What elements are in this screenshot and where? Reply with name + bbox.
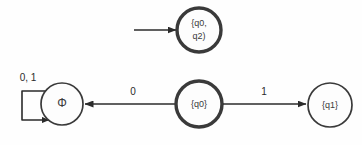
state-phi[interactable]: Φ (41, 83, 83, 125)
transition-q0-to-phi: 0 (85, 86, 176, 104)
state-q0-label: {q0} (191, 99, 207, 109)
q0-to-phi-label: 0 (130, 86, 136, 97)
state-q1-label: {q1} (322, 100, 338, 110)
state-q0[interactable]: {q0} (176, 81, 222, 127)
state-q0q2-label-line1: {q0, (191, 18, 207, 28)
state-q1[interactable]: {q1} (308, 83, 352, 127)
automaton-diagram: {q0, q2) 0, 1 Φ Phi ===== --> 0 {q0} {q1… (0, 0, 362, 145)
q0-to-q1-label: 1 (261, 86, 267, 97)
state-phi-label: Φ (57, 96, 67, 110)
transition-q0-to-q1: 1 (223, 86, 306, 104)
state-diagram-canvas: {q0, q2) 0, 1 Φ Phi ===== --> 0 {q0} {q1… (0, 0, 362, 145)
state-q0q2-circle (177, 8, 221, 52)
state-q0q2-label-line2: q2) (192, 31, 205, 41)
state-q0q2[interactable]: {q0, q2) (177, 8, 221, 52)
phi-self-loop-label: 0, 1 (20, 72, 37, 83)
